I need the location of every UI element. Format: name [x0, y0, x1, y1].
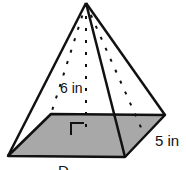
- bottom-label: D: [58, 162, 69, 170]
- height-label: 6 in: [60, 80, 83, 96]
- edge-back-right: [86, 3, 165, 115]
- side-label: 5 in: [155, 132, 179, 149]
- pyramid-base: [8, 114, 165, 157]
- pyramid-diagram: 6 in 5 in D: [0, 0, 186, 170]
